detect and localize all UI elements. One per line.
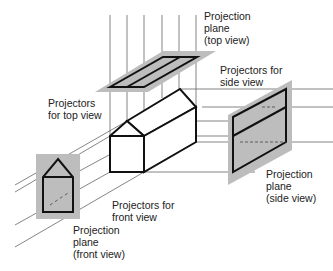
label-side-plane: Projection plane (side view) [266, 168, 316, 204]
house-object [110, 89, 196, 172]
front-projection-plane [36, 154, 80, 219]
label-front-projectors: Projectors for front view [112, 199, 174, 223]
label-top-plane: Projection plane (top view) [204, 10, 251, 46]
top-projection-plane [95, 51, 216, 92]
label-front-plane: Projection plane (front view) [73, 224, 125, 260]
label-side-projectors: Projectors for side view [220, 64, 282, 88]
projection-diagram [0, 0, 333, 271]
label-top-projectors: Projectors for top view [48, 97, 102, 121]
